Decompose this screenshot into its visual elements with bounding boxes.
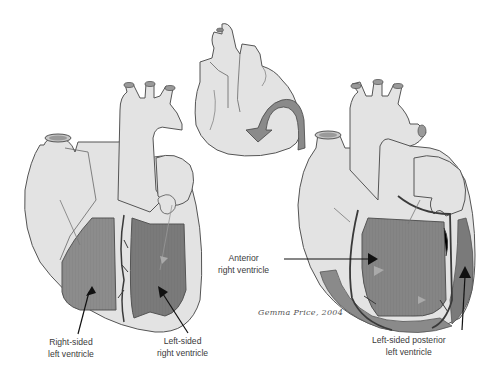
artist-signature: Gemma Price, 2004 xyxy=(258,308,343,317)
right-heart-illustration xyxy=(284,80,475,333)
heart-diagram: Right-sided left ventricle Left-sided ri… xyxy=(0,0,487,384)
left-heart-illustration xyxy=(25,82,202,335)
label-anterior-right-ventricle: Anterior right ventricle xyxy=(218,252,269,276)
label-left-sided-right-ventricle: Left-sided right ventricle xyxy=(157,335,208,359)
label-right-sided-left-ventricle: Right-sided left ventricle xyxy=(48,336,94,360)
center-heart-illustration xyxy=(195,24,305,156)
label-left-sided-posterior-left-ventricle: Left-sided posterior left ventricle xyxy=(372,334,446,358)
